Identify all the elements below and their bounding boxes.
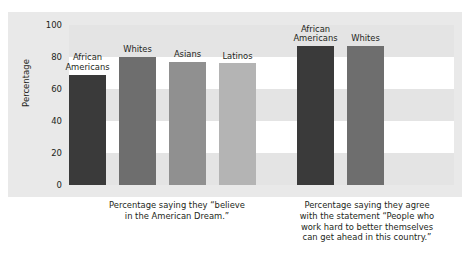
group-caption-1: Percentage saying they agreewith the sta… bbox=[272, 200, 462, 243]
bar bbox=[297, 46, 334, 185]
bar-label: Latinos bbox=[198, 52, 278, 61]
bar-label-line: Latinos bbox=[198, 52, 278, 61]
chart-figure: 020406080100 Percentage AfricanAmericans… bbox=[0, 0, 470, 255]
y-axis-label: Percentage bbox=[21, 53, 31, 113]
y-tick-label: 20 bbox=[22, 149, 62, 158]
bar-label: Whites bbox=[326, 34, 406, 43]
group-caption-0: Percentage saying they “believein the Am… bbox=[82, 200, 272, 222]
bar bbox=[347, 46, 384, 185]
caption-line: in the American Dream.” bbox=[82, 211, 272, 222]
caption-line: work hard to better themselves bbox=[272, 222, 462, 233]
bar bbox=[119, 57, 156, 185]
caption-line: Percentage saying they agree bbox=[272, 200, 462, 211]
y-tick-label: 100 bbox=[22, 21, 62, 30]
caption-line: with the statement “People who bbox=[272, 211, 462, 222]
y-tick-label: 0 bbox=[22, 181, 62, 190]
y-tick-label: 40 bbox=[22, 117, 62, 126]
bar bbox=[69, 75, 106, 185]
caption-line: Percentage saying they “believe bbox=[82, 200, 272, 211]
bar bbox=[219, 63, 256, 185]
bar-label: AfricanAmericans bbox=[48, 53, 128, 72]
caption-line: can get ahead in this country.” bbox=[272, 232, 462, 243]
bar-label-line: Whites bbox=[326, 34, 406, 43]
bar bbox=[169, 62, 206, 185]
bar-label-line: Americans bbox=[48, 63, 128, 72]
